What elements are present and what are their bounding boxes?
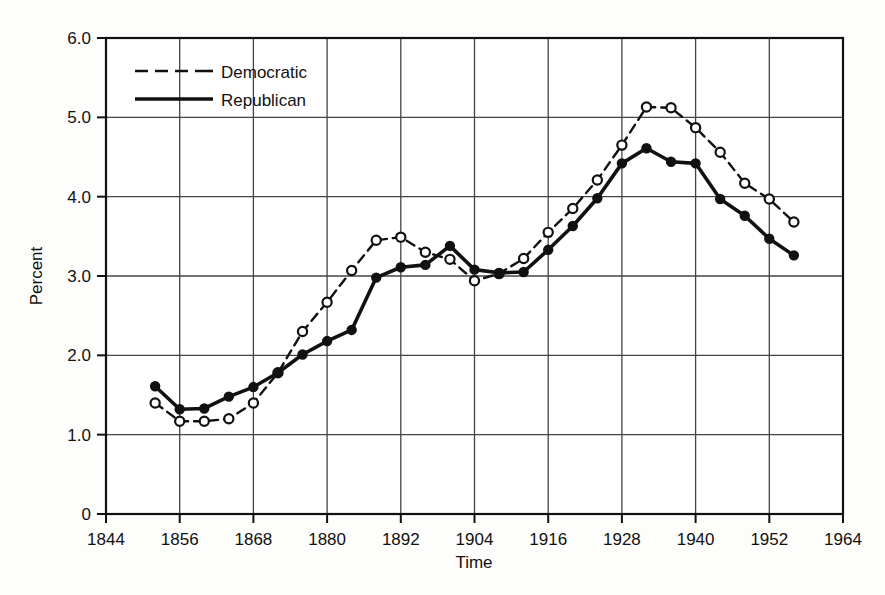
data-point: [568, 222, 577, 231]
data-point: [740, 179, 749, 188]
data-point: [347, 326, 356, 335]
data-point: [200, 404, 209, 413]
legend-label-republican: Republican: [221, 91, 306, 110]
data-point: [667, 157, 676, 166]
x-tick-label: 1916: [529, 530, 567, 549]
x-tick-label: 1892: [382, 530, 420, 549]
data-point: [445, 255, 454, 264]
x-tick-label: 1952: [750, 530, 788, 549]
x-tick-label: 1904: [456, 530, 494, 549]
x-tick-label: 1964: [824, 530, 862, 549]
data-point: [544, 228, 553, 237]
data-point: [200, 417, 209, 426]
data-point: [691, 159, 700, 168]
data-point: [765, 194, 774, 203]
data-point: [421, 260, 430, 269]
data-point: [421, 248, 430, 257]
data-point: [568, 204, 577, 213]
legend-label-democratic: Democratic: [221, 63, 307, 82]
data-point: [396, 233, 405, 242]
data-point: [470, 276, 479, 285]
data-point: [716, 148, 725, 157]
data-point: [740, 211, 749, 220]
x-tick-label: 1856: [161, 530, 199, 549]
y-tick-label: 1.0: [67, 426, 91, 445]
data-point: [789, 251, 798, 260]
x-tick-label: 1844: [87, 530, 125, 549]
y-tick-label: 4.0: [67, 188, 91, 207]
data-point: [372, 273, 381, 282]
data-point: [249, 398, 258, 407]
data-point: [593, 175, 602, 184]
data-point: [151, 382, 160, 391]
data-point: [298, 350, 307, 359]
data-point: [544, 245, 553, 254]
data-point: [593, 194, 602, 203]
data-point: [617, 141, 626, 150]
data-point: [691, 123, 700, 132]
data-point: [618, 159, 627, 168]
data-point: [519, 268, 528, 277]
chart-figure: 01.02.03.04.05.06.0 18441856186818801892…: [0, 0, 885, 595]
line-chart: 01.02.03.04.05.06.0 18441856186818801892…: [0, 0, 885, 595]
x-axis-tick-labels: 1844185618681880189219041916192819401952…: [87, 530, 862, 549]
x-tick-label: 1880: [308, 530, 346, 549]
data-point: [323, 337, 332, 346]
y-tick-label: 3.0: [67, 267, 91, 286]
x-tick-label: 1940: [677, 530, 715, 549]
data-point: [446, 241, 455, 250]
data-point: [224, 414, 233, 423]
data-point: [323, 298, 332, 307]
data-point: [495, 268, 504, 277]
data-point: [224, 392, 233, 401]
data-point: [396, 263, 405, 272]
data-point: [274, 368, 283, 377]
y-tick-label: 2.0: [67, 346, 91, 365]
y-tick-label: 5.0: [67, 108, 91, 127]
y-tick-label: 6.0: [67, 29, 91, 48]
data-point: [175, 405, 184, 414]
x-axis-title: Time: [455, 553, 492, 572]
data-point: [666, 103, 675, 112]
y-axis-tick-labels: 01.02.03.04.05.06.0: [67, 29, 91, 524]
x-tick-label: 1868: [234, 530, 272, 549]
data-point: [175, 417, 184, 426]
data-point: [151, 398, 160, 407]
y-axis-ticks: [97, 38, 106, 514]
data-point: [519, 254, 528, 263]
data-point: [642, 102, 651, 111]
data-point: [347, 266, 356, 275]
y-tick-label: 0: [82, 505, 91, 524]
data-point: [642, 144, 651, 153]
x-axis-ticks: [106, 514, 843, 523]
data-point: [470, 265, 479, 274]
data-point: [789, 217, 798, 226]
data-point: [765, 234, 774, 243]
x-tick-label: 1928: [603, 530, 641, 549]
y-axis-title: Percent: [27, 246, 46, 305]
data-point: [716, 195, 725, 204]
data-point: [249, 383, 258, 392]
data-point: [372, 236, 381, 245]
data-point: [298, 327, 307, 336]
